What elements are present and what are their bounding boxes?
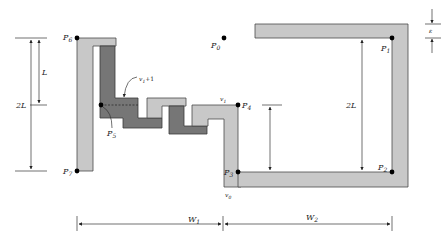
label-p0: P0 — [210, 41, 220, 51]
label-p6: P6 — [62, 33, 72, 43]
center-light-strip — [192, 105, 241, 187]
label-v0: v0 — [225, 191, 231, 200]
label-2L-left: 2L — [15, 101, 26, 110]
label-p5: P5 — [106, 129, 116, 139]
label-epsilon: ε — [429, 27, 432, 34]
label-W1: W1 — [188, 215, 200, 225]
label-p4: P4 — [241, 101, 251, 111]
point-p1 — [390, 36, 395, 41]
label-L: L — [41, 68, 47, 77]
label-p1: P1 — [380, 44, 390, 54]
point-p0 — [222, 36, 227, 41]
label-v1: v1 — [220, 95, 226, 104]
point-p5 — [99, 103, 104, 108]
point-p2 — [390, 170, 395, 175]
point-p4 — [236, 103, 241, 108]
label-v1-plus-1: v1+1 — [139, 75, 154, 84]
polygon-diagram: P6 P7 P5 P0 P1 P2 P3 P4 v0 v1 v1+1 L 2L … — [0, 0, 448, 242]
label-W2: W2 — [306, 213, 318, 223]
v1plus1-leader — [124, 77, 137, 97]
label-p7: P7 — [62, 167, 72, 177]
label-2L-right: 2L — [345, 101, 356, 110]
label-p2: P2 — [377, 163, 387, 173]
point-p3 — [236, 170, 241, 175]
point-p6 — [75, 36, 80, 41]
diagram-canvas: P6 P7 P5 P0 P1 P2 P3 P4 v0 v1 v1+1 L 2L … — [0, 0, 448, 242]
point-p7 — [75, 169, 80, 174]
